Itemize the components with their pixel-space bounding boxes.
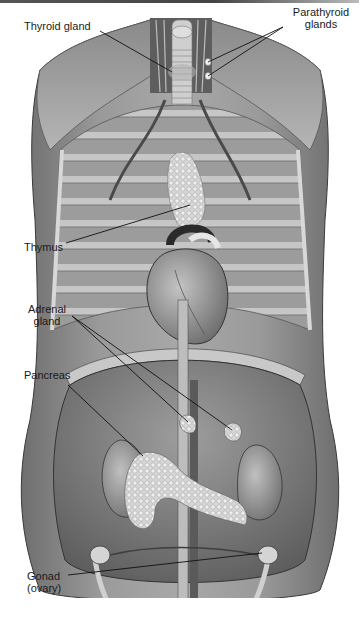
label-gonad: Gonad (ovary) [27, 570, 61, 594]
label-adrenal-line1: Adrenal [24, 303, 70, 315]
label-gonad-line1: Gonad [27, 570, 61, 582]
thyroid-gland [168, 64, 196, 80]
label-pancreas: Pancreas [24, 369, 70, 381]
left-ovary [90, 546, 110, 564]
aorta [178, 300, 188, 600]
label-parathyroid-line2: glands [286, 18, 356, 30]
label-adrenal-gland: Adrenal gland [24, 303, 70, 327]
right-ovary [258, 546, 278, 564]
label-parathyroid-line1: Parathyroid [286, 6, 356, 18]
label-gonad-line2: (ovary) [27, 582, 61, 594]
right-adrenal-gland [224, 423, 241, 441]
label-adrenal-line2: gland [24, 315, 70, 327]
label-thyroid-gland: Thyroid gland [24, 20, 91, 32]
label-thymus: Thymus [24, 241, 63, 253]
label-parathyroid-glands: Parathyroid glands [286, 6, 356, 30]
